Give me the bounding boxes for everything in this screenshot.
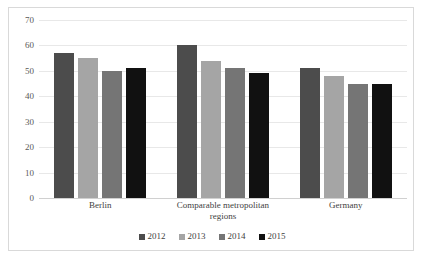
y-axis-tick-label: 20 <box>25 143 34 152</box>
bar-2012-germany[interactable] <box>300 68 320 198</box>
bar-2013-comparable[interactable] <box>201 61 221 198</box>
x-axis-label-line: Germany <box>284 200 407 211</box>
bar-2013-berlin[interactable] <box>78 58 98 198</box>
axis-baseline <box>39 198 407 199</box>
legend-swatch-icon <box>139 234 145 240</box>
legend-swatch-icon <box>259 234 265 240</box>
x-axis-category-label: Berlin <box>39 200 162 211</box>
bar-2015-comparable[interactable] <box>249 73 269 198</box>
x-axis-label-line: Comparable metropolitan <box>162 200 285 211</box>
bar-group <box>284 20 407 198</box>
y-axis-tick-label: 0 <box>30 194 35 203</box>
bar-2014-germany[interactable] <box>348 84 368 198</box>
x-axis-category-label: Germany <box>284 200 407 211</box>
legend-label: 2012 <box>148 232 166 241</box>
legend-label: 2015 <box>268 232 286 241</box>
legend-swatch-icon <box>179 234 185 240</box>
x-axis-label-line: Berlin <box>39 200 162 211</box>
bar-2012-comparable[interactable] <box>177 45 197 198</box>
bar-2012-berlin[interactable] <box>54 53 74 198</box>
x-axis-category-labels: BerlinComparable metropolitanregionsGerm… <box>39 200 407 234</box>
plot-area: 010203040506070 <box>39 20 407 198</box>
x-axis-category-label: Comparable metropolitanregions <box>162 200 285 222</box>
y-axis-tick-label: 10 <box>25 168 34 177</box>
legend-item-2012[interactable]: 2012 <box>139 232 166 241</box>
bar-group <box>39 20 162 198</box>
bar-group <box>162 20 285 198</box>
legend-label: 2014 <box>228 232 246 241</box>
legend-item-2015[interactable]: 2015 <box>259 232 286 241</box>
bar-2013-germany[interactable] <box>324 76 344 198</box>
y-axis-tick-label: 30 <box>25 117 34 126</box>
chart-legend: 2012201320142015 <box>9 232 415 241</box>
bar-2014-berlin[interactable] <box>102 71 122 198</box>
legend-label: 2013 <box>188 232 206 241</box>
y-axis-tick-label: 70 <box>25 16 34 25</box>
legend-item-2013[interactable]: 2013 <box>179 232 206 241</box>
bar-series-layer <box>39 20 407 198</box>
bar-2014-comparable[interactable] <box>225 68 245 198</box>
x-axis-label-line: regions <box>162 211 285 222</box>
bar-2015-berlin[interactable] <box>126 68 146 198</box>
legend-swatch-icon <box>219 234 225 240</box>
bar-2015-germany[interactable] <box>372 84 392 198</box>
y-axis-tick-label: 60 <box>25 41 34 50</box>
y-axis-tick-label: 50 <box>25 66 34 75</box>
chart-frame: 010203040506070 BerlinComparable metropo… <box>8 7 414 251</box>
y-axis-tick-label: 40 <box>25 92 34 101</box>
legend-item-2014[interactable]: 2014 <box>219 232 246 241</box>
